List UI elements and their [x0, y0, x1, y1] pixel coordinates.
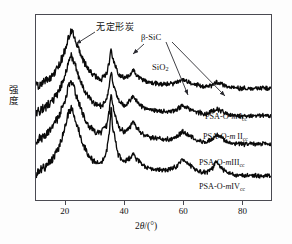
annotation-beta-sic: β-SiC — [141, 33, 161, 42]
annotation-silica-text: SiO — [152, 62, 165, 72]
curve-label-3-roman: III — [231, 158, 239, 167]
x-axis-title-unit: /(°) — [144, 221, 157, 231]
x-tick-label-80: 80 — [238, 206, 247, 216]
curve-label-1-base: PSA-O- — [205, 112, 231, 121]
x-tick-80 — [242, 201, 243, 205]
x-tick-label-40: 40 — [119, 206, 128, 216]
x-tick-label-20: 20 — [60, 206, 69, 216]
annotation-silica: SiO2 — [152, 63, 168, 72]
curve-label-4-roman: IV — [231, 182, 240, 191]
x-tick-20 — [65, 201, 66, 205]
curve-label-4-base: PSA-O- — [199, 182, 225, 191]
curve-label-4: PSA-O-mIVcc — [199, 183, 245, 192]
x-tick-60 — [183, 201, 184, 205]
curve-label-2: PSA-O-m IIcc — [203, 133, 248, 142]
x-tick-label-60: 60 — [179, 206, 188, 216]
curve-label-3-sub: cc — [240, 162, 245, 168]
annotation-beta-sic-text: β-SiC — [141, 32, 161, 42]
x-tick-40 — [124, 201, 125, 205]
curve-label-1: PSA-O-m Icc — [205, 113, 247, 122]
annotation-amorphous-carbon-text: 无定形炭 — [96, 22, 134, 32]
curve-label-4-sub: cc — [240, 186, 245, 192]
y-axis-title: 强度 — [6, 85, 20, 107]
curve-label-2-roman: II — [235, 132, 243, 141]
annotation-amorphous-carbon: 无定形炭 — [96, 23, 134, 32]
plot-area — [35, 14, 272, 201]
xrd-figure: 强度 20406080 2θ/(°) 无定形炭 β-SiC SiO2 PSA-O… — [0, 0, 292, 244]
curve-label-2-base: PSA-O- — [203, 132, 229, 141]
annotation-silica-subscript: 2 — [165, 65, 168, 72]
x-axis-title: 2θ/(°) — [0, 221, 292, 231]
xrd-curves — [36, 15, 271, 200]
curve-label-2-sub: cc — [243, 136, 248, 142]
curve-label-3-base: PSA-O- — [199, 158, 225, 167]
curve-label-1-sub: cc — [242, 116, 247, 122]
curve-label-3: PSA-O-mIIIcc — [199, 159, 244, 168]
